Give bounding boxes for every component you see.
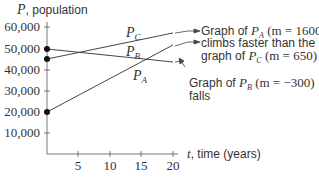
annotation-pb: Graph of PB (m = −300) falls [189,75,315,103]
chart: 60,000 50,000 40,000 30,000 20,000 10,00… [0,0,319,177]
svg-text:20: 20 [167,158,180,173]
series-pb-start-point [44,46,50,52]
svg-text:15: 15 [135,158,148,173]
y-axis-label: P, population [16,2,88,17]
svg-text:10: 10 [104,158,117,173]
y-tick-labels: 60,000 50,000 40,000 30,000 20,000 10,00… [4,19,40,140]
series-pc-start-point [44,56,50,62]
series-pb-label: PB [125,44,141,61]
svg-text:50,000: 50,000 [4,41,40,56]
x-tick-labels: 5 10 15 20 [75,158,180,173]
annotation-leaders [175,29,200,67]
svg-text:10,000: 10,000 [4,125,40,140]
svg-text:graph of PC (m = 650): graph of PC (m = 650) [201,48,317,65]
svg-text:20,000: 20,000 [4,104,40,119]
svg-text:falls: falls [189,89,210,103]
series-pa-start-point [44,109,50,115]
svg-text:40,000: 40,000 [4,62,40,77]
svg-text:5: 5 [75,158,82,173]
annotation-pa-pc: Graph of PA (m = 1600) climbs faster tha… [201,23,319,65]
series-pa-label: PA [132,68,148,85]
series-pc-label: PC [125,25,142,42]
svg-text:30,000: 30,000 [4,83,40,98]
x-axis-label: t, time (years) [187,146,261,161]
svg-text:60,000: 60,000 [4,19,40,34]
